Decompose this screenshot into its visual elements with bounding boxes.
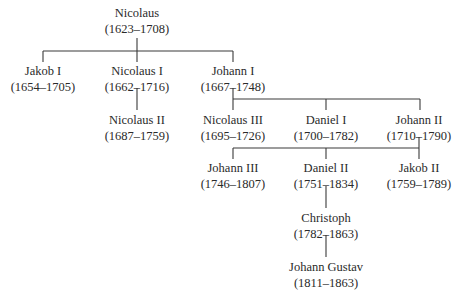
node-johann-gustav: Johann Gustav (1811–1863) (266, 259, 386, 291)
person-years: (1811–1863) (266, 275, 386, 291)
family-tree-diagram: Nicolaus (1623–1708) Jakob I (1654–1705)… (0, 0, 465, 299)
node-johann-ii: Johann II (1710–1790) (359, 112, 465, 144)
node-nicolaus: Nicolaus (1623–1708) (77, 5, 197, 37)
person-name: Christoph (266, 210, 386, 226)
person-years: (1782–1863) (266, 226, 386, 242)
node-johann-i: Johann I (1667–1748) (173, 63, 293, 95)
connector-lines (0, 0, 465, 299)
person-years: (1667–1748) (173, 79, 293, 95)
person-years: (1710–1790) (359, 128, 465, 144)
person-years: (1759–1789) (359, 176, 465, 192)
person-name: Johann I (173, 63, 293, 79)
node-jakob-ii: Jakob II (1759–1789) (359, 160, 465, 192)
person-name: Johann II (359, 112, 465, 128)
person-name: Johann Gustav (266, 259, 386, 275)
node-christoph: Christoph (1782–1863) (266, 210, 386, 242)
person-name: Jakob II (359, 160, 465, 176)
person-name: Nicolaus (77, 5, 197, 21)
person-years: (1623–1708) (77, 21, 197, 37)
